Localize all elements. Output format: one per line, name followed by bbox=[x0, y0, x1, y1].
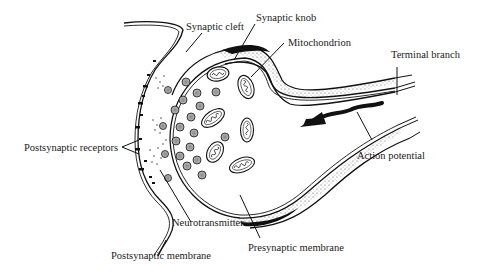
label-postsynaptic-receptors: Postsynaptic receptors bbox=[24, 142, 118, 153]
mitochondria bbox=[198, 65, 257, 176]
synapse-diagram: Synaptic cleft Synaptic knob Mitochondri… bbox=[0, 0, 488, 274]
label-postsynaptic-membrane: Postsynaptic membrane bbox=[111, 250, 211, 261]
label-presynaptic-membrane: Presynaptic membrane bbox=[248, 242, 344, 253]
label-synaptic-knob: Synaptic knob bbox=[256, 12, 316, 23]
action-potential-arrow bbox=[300, 103, 382, 127]
label-action-potential: Action potential bbox=[357, 150, 425, 161]
label-synaptic-cleft: Synaptic cleft bbox=[186, 21, 244, 32]
label-terminal-branch: Terminal branch bbox=[391, 49, 461, 60]
label-mitochondrion: Mitochondrion bbox=[288, 37, 352, 48]
label-neurotransmitter: Neurotransmitter bbox=[172, 217, 244, 228]
